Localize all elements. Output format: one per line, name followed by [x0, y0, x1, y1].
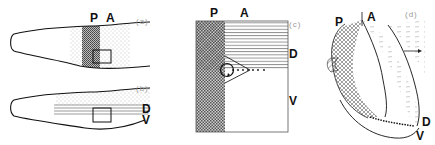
panel-c-id: (c) — [289, 21, 301, 29]
panel-d-label-v: V — [416, 130, 424, 142]
panel-d-label-p: P — [335, 16, 343, 28]
panel-c-label-v: V — [289, 95, 297, 107]
panel-c-label-d: D — [289, 48, 298, 60]
panel-a-label-p: P — [90, 12, 98, 24]
panel-b-id: (b) — [136, 85, 149, 93]
panel-b-box — [93, 108, 111, 122]
panel-a-id: (a) — [136, 18, 149, 26]
panel-c-label-a: A — [240, 7, 249, 19]
panel-b-label-v: V — [142, 114, 150, 126]
panel-d-id: (d) — [405, 11, 418, 19]
panel-c — [196, 21, 288, 132]
panel-d-label-a: A — [367, 11, 376, 23]
panel-d-label-d: D — [422, 116, 431, 128]
panel-a — [11, 18, 150, 73]
panel-d — [327, 12, 425, 138]
panel-a-label-a: A — [106, 12, 115, 24]
panel-b — [11, 86, 150, 129]
panel-d-dv-boundary — [370, 117, 414, 126]
panel-c-label-p: P — [210, 7, 218, 19]
